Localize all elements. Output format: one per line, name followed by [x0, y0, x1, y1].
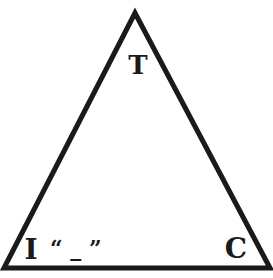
triangle-svg: T I “ _ ” C — [0, 0, 273, 278]
vertex-label-bottom-left: I — [24, 233, 37, 266]
triangle-diagram: T I “ _ ” C — [0, 0, 273, 278]
vertex-label-top: T — [128, 50, 148, 80]
vertex-annotation-bottom-left: “ _ ” — [50, 235, 102, 261]
vertex-label-bottom-right: C — [225, 232, 247, 265]
